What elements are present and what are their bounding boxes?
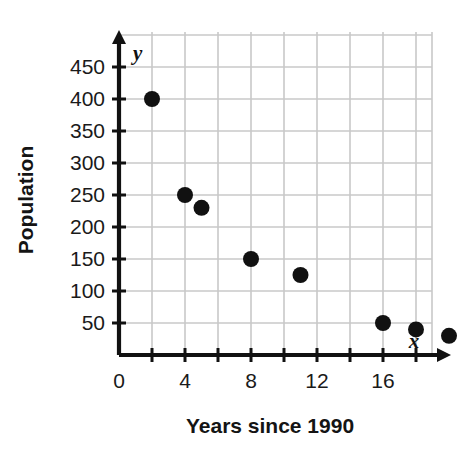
data-point [375, 315, 391, 331]
y-axis-title: Population [14, 146, 37, 255]
x-axis-tick-labels: 0481216 [113, 369, 395, 392]
y-axis-variable-label: y [130, 41, 143, 65]
data-point-series [144, 91, 457, 344]
y-axis-arrowhead [112, 30, 126, 44]
axis-lines [112, 30, 451, 362]
data-point [194, 200, 210, 216]
y-tick-label: 200 [70, 215, 105, 238]
y-tick-label: 350 [70, 119, 105, 142]
scatter-plot-figure: 0481216 50100150200250300350400450 y x Y… [0, 0, 461, 463]
data-point [441, 328, 457, 344]
y-tick-label: 100 [70, 279, 105, 302]
data-point [243, 251, 259, 267]
y-tick-label: 400 [70, 87, 105, 110]
y-tick-label: 150 [70, 247, 105, 270]
data-point [144, 91, 160, 107]
x-axis-title: Years since 1990 [186, 414, 354, 437]
data-point [408, 321, 424, 337]
data-point [177, 187, 193, 203]
x-tick-label: 12 [305, 369, 328, 392]
x-tick-label: 16 [371, 369, 394, 392]
y-tick-label: 50 [82, 311, 105, 334]
chart-svg: 0481216 50100150200250300350400450 y x Y… [0, 0, 461, 463]
x-tick-label: 0 [113, 369, 125, 392]
y-axis-tick-labels: 50100150200250300350400450 [70, 55, 105, 334]
x-tick-label: 4 [179, 369, 191, 392]
y-tick-label: 300 [70, 151, 105, 174]
grid-horizontal-lines [119, 35, 432, 323]
x-axis-arrowhead [437, 348, 451, 362]
data-point [293, 267, 309, 283]
y-tick-label: 450 [70, 55, 105, 78]
x-tick-label: 8 [245, 369, 257, 392]
y-tick-label: 250 [70, 183, 105, 206]
grid-vertical-lines [119, 32, 432, 355]
